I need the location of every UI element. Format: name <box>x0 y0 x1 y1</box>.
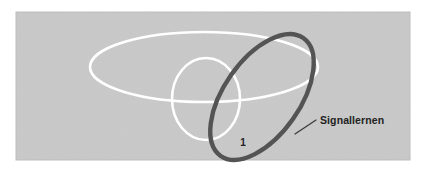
region-one-label: 1 <box>240 137 246 148</box>
venn-diagram-canvas: Signallernen 1 <box>0 0 430 173</box>
figure-panel <box>16 12 410 160</box>
figure-container: Signallernen 1 <box>0 0 430 173</box>
signal-learning-label: Signallernen <box>320 114 384 126</box>
panel-texture-overlay <box>16 12 410 160</box>
